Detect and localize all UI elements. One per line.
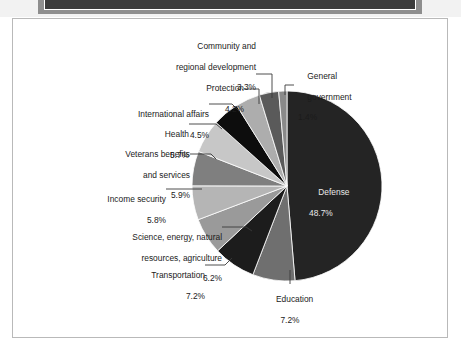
page-header-strip: [0, 0, 461, 17]
label-defense-pct: 48.7%: [309, 208, 389, 218]
label-community-line1: Community and: [197, 41, 256, 51]
label-general-government: General government 1.4%: [298, 61, 408, 143]
label-education-pct: 7.2%: [260, 315, 320, 325]
label-protection-name: Protection: [206, 83, 244, 93]
label-general-government-pct: 1.4%: [298, 112, 408, 122]
label-education-name: Education: [276, 294, 313, 304]
label-science-line1: Science, energy, natural: [132, 232, 222, 242]
label-transportation: Transportation 7.2%: [115, 260, 205, 321]
label-veterans-line1: Veterans benefits: [125, 149, 190, 159]
label-community-line2: regional development: [176, 62, 256, 72]
label-education: Education 7.2%: [260, 284, 320, 345]
label-defense: Defense 48.7%: [309, 177, 389, 238]
label-defense-name: Defense: [318, 187, 349, 197]
label-income-security-name: Income security: [107, 194, 166, 204]
label-veterans-line2: and services: [143, 170, 190, 180]
label-international-name: International affairs: [138, 109, 209, 119]
label-transportation-pct: 7.2%: [115, 291, 205, 301]
label-general-government-line1: General: [307, 71, 337, 81]
header-bar-inner: [44, 0, 416, 10]
label-health-name: Health: [165, 129, 189, 139]
figure-container: Community and regional development 3.3% …: [12, 18, 448, 338]
label-general-government-line2: government: [307, 92, 351, 102]
label-transportation-name: Transportation: [151, 270, 205, 280]
